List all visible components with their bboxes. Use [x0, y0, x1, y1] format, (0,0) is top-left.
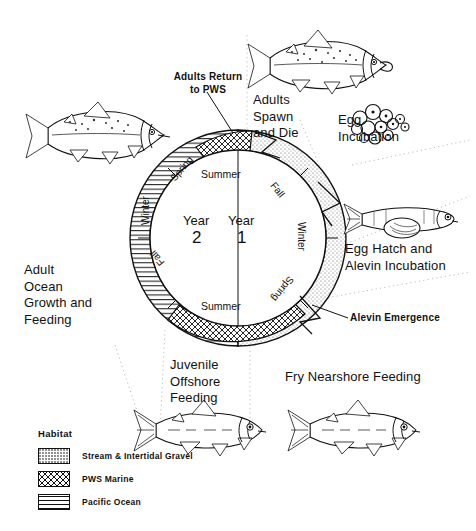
year-1-label: Year: [228, 213, 254, 228]
label-adult-ocean-growth-feeding: Adult Ocean Growth and Feeding: [24, 262, 124, 329]
cycle-summer-top-label: Summer: [201, 168, 241, 180]
legend-item-pws-marine: PWS Marine: [38, 471, 253, 487]
legend-label-pacific-ocean: Pacific Ocean: [82, 497, 141, 507]
illustration-alevin-with-yolk-sac: [344, 204, 458, 238]
season-winter-right: Winter: [296, 222, 307, 251]
yolk-sac: [384, 218, 420, 238]
label-egg-incubation: Egg Incubation: [338, 112, 448, 145]
legend-label-pws-marine: PWS Marine: [82, 474, 134, 484]
illustration-fry-salmon: [288, 400, 420, 456]
label-egg-hatch-alevin-incubation: Egg Hatch and Alevin Incubation: [345, 241, 473, 274]
habitat-legend: Habitat Stream & Intertidal Gravel PWS M…: [38, 428, 253, 517]
year-1-number: 1: [237, 228, 246, 248]
cycle-summer-bottom-label: Summer: [201, 300, 241, 312]
label-alevin-emergence: Alevin Emergence: [350, 312, 470, 325]
label-adults-return-to-pws: Adults Return to PWS: [160, 71, 256, 97]
legend-label-stream-intertidal-gravel: Stream & Intertidal Gravel: [82, 451, 193, 461]
legend-item-stream-intertidal-gravel: Stream & Intertidal Gravel: [38, 448, 253, 464]
label-juvenile-offshore-feeding: Juvenile Offshore Feeding: [170, 357, 260, 407]
legend-title: Habitat: [38, 428, 253, 439]
legend-swatch-stream-intertidal-gravel: [38, 448, 70, 464]
legend-swatch-pws-marine: [38, 471, 70, 487]
label-adults-spawn-and-die: Adults Spawn and Die: [253, 92, 333, 142]
legend-swatch-pacific-ocean: [38, 494, 70, 510]
year-2-number: 2: [192, 228, 201, 248]
salmon-life-cycle-diagram: .dotline{stroke:#bdbdbd;stroke-width:1;s…: [0, 0, 476, 531]
leader-adults-return: [207, 92, 233, 133]
label-fry-nearshore-feeding: Fry Nearshore Feeding: [285, 369, 435, 386]
illustration-adult-salmon-ocean: [26, 102, 170, 164]
season-winter-left: Winter: [140, 196, 151, 225]
illustration-adult-salmon-spawning: [248, 30, 392, 94]
legend-item-pacific-ocean: Pacific Ocean: [38, 494, 253, 510]
year-2-label: Year: [183, 213, 209, 228]
